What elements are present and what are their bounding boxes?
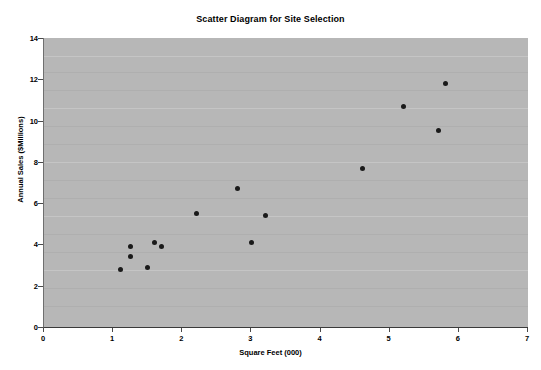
chart-title: Scatter Diagram for Site Selection [0,14,541,24]
x-tick-mark [527,328,528,332]
x-tick-mark [458,328,459,332]
x-tick-label: 6 [445,334,471,343]
plot-texture-band [44,234,528,235]
plot-texture-band [44,56,528,57]
data-point [128,244,133,249]
data-point [249,240,254,245]
data-point [436,128,441,133]
plot-texture-band [44,126,528,127]
y-axis-label: Annual Sales ($Millions) [16,70,25,250]
data-point [401,104,406,109]
data-point [118,267,123,272]
x-axis-label: Square Feet (000) [0,348,541,357]
plot-texture-band [44,216,528,217]
x-tick-mark [181,328,182,332]
plot-texture-band [44,72,528,73]
plot-texture-band [44,108,528,109]
x-tick-label: 5 [376,334,402,343]
x-tick-mark [250,328,251,332]
x-tick-label: 3 [237,334,263,343]
x-tick-label: 0 [30,334,56,343]
x-tick-mark [112,328,113,332]
plot-texture-band [44,288,528,289]
data-point [159,244,164,249]
scatter-chart-figure: Scatter Diagram for Site Selection 02468… [0,0,541,370]
data-point [145,265,150,270]
plot-inner [44,38,528,327]
plot-area [43,38,528,328]
plot-texture-band [44,162,528,163]
x-tick-label: 7 [514,334,540,343]
data-point [263,213,268,218]
x-tick-mark [43,328,44,332]
data-point [152,240,157,245]
plot-texture-band [44,198,528,199]
plot-texture-band [44,180,528,181]
x-tick-label: 2 [168,334,194,343]
data-point [128,254,133,259]
data-point [194,211,199,216]
x-tick-label: 1 [99,334,125,343]
y-tick-label: 14 [16,34,38,43]
data-point [360,166,365,171]
plot-texture-band [44,144,528,145]
y-tick-label: 0 [16,323,38,332]
x-tick-label: 4 [307,334,333,343]
y-tick-label: 2 [16,281,38,290]
data-point [235,186,240,191]
x-tick-mark [389,328,390,332]
plot-texture-band [44,252,528,253]
x-tick-mark [320,328,321,332]
data-point [443,81,448,86]
plot-texture-band [44,90,528,91]
plot-texture-band [44,306,528,307]
plot-texture-band [44,270,528,271]
